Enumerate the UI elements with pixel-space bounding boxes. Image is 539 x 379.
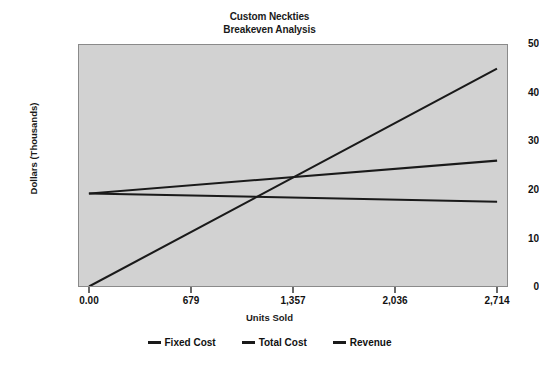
legend-item-total-cost[interactable]: Total Cost <box>242 337 307 348</box>
x-tick-mark-1357 <box>292 287 294 293</box>
x-axis-title: Units Sold <box>0 312 539 323</box>
chart-title-line-1: Custom Neckties <box>0 10 539 23</box>
legend-label-fixed-cost: Fixed Cost <box>165 337 216 348</box>
legend-label-total-cost: Total Cost <box>259 337 307 348</box>
x-tick-label-2036: 2,036 <box>360 295 430 306</box>
x-tick-mark-679 <box>190 287 192 293</box>
x-tick-mark-0 <box>88 287 90 293</box>
legend-item-revenue[interactable]: Revenue <box>333 337 392 348</box>
x-tick-label-2714: 2,714 <box>462 295 532 306</box>
x-tick-label-1357: 1,357 <box>258 295 328 306</box>
plot-lines <box>79 45 507 286</box>
chart-title: Custom Neckties Breakeven Analysis <box>0 10 539 36</box>
chart-legend: Fixed Cost Total Cost Revenue <box>0 337 539 348</box>
x-tick-label-0: 0.00 <box>54 295 124 306</box>
legend-label-revenue: Revenue <box>350 337 392 348</box>
legend-item-fixed-cost[interactable]: Fixed Cost <box>148 337 216 348</box>
x-tick-mark-2714 <box>496 287 498 293</box>
legend-line-icon <box>148 341 161 344</box>
x-tick-label-679: 679 <box>156 295 226 306</box>
series-line-fixed-cost <box>90 193 496 201</box>
x-tick-mark-2036 <box>394 287 396 293</box>
legend-line-icon <box>242 341 255 344</box>
legend-line-icon <box>333 341 346 344</box>
y-axis-title: Dollars (Thousands) <box>28 59 39 239</box>
plot-area <box>78 44 508 287</box>
breakeven-chart: Custom Neckties Breakeven Analysis Dolla… <box>0 0 539 379</box>
series-line-revenue <box>90 69 496 286</box>
chart-title-line-2: Breakeven Analysis <box>0 23 539 36</box>
